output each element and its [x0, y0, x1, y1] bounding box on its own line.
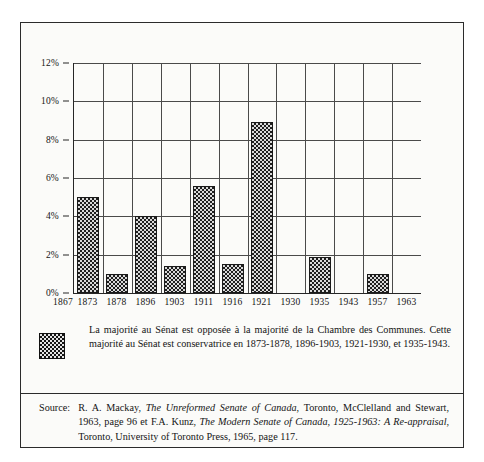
x-axis-tick-label: 1930: [276, 297, 305, 313]
bar-slot: [334, 63, 363, 293]
bar: [77, 197, 99, 293]
bar-slot: [74, 63, 103, 293]
y-axis-tick: [63, 293, 69, 294]
bar-slot: [161, 63, 190, 293]
bar: [193, 186, 215, 293]
x-axis: 1873187818961903191119161921193019351943…: [73, 297, 421, 313]
x-axis-tick-label: 1903: [160, 297, 189, 313]
bar-series: [74, 63, 421, 293]
bar-slot: [305, 63, 334, 293]
x-axis-tick-label: 1943: [334, 297, 363, 313]
bar-chart: 0%2%4%6%8%10%12% 1867 187318781896190319…: [21, 23, 465, 313]
bar-slot: [363, 63, 392, 293]
x-axis-tick-label: 1957: [363, 297, 392, 313]
source-note: Source: R. A. Mackay, The Unreformed Sen…: [21, 401, 465, 444]
bar-slot: [132, 63, 161, 293]
bar: [106, 274, 128, 293]
y-axis-tick-label: 10%: [41, 96, 59, 106]
bar: [222, 264, 244, 293]
source-citation: R. A. Mackay, The Unreformed Senate of C…: [78, 401, 449, 444]
bar-slot: [103, 63, 132, 293]
y-axis-tick-label: 2%: [46, 250, 59, 260]
y-axis-tick: [63, 101, 69, 102]
x-axis-tick-label: 1935: [305, 297, 334, 313]
bar-slot: [190, 63, 219, 293]
y-axis: 0%2%4%6%8%10%12%: [21, 63, 69, 293]
y-axis-tick: [63, 178, 69, 179]
x-axis-tick-label: 1911: [189, 297, 218, 313]
source-book-title: The Modern Senate of Canada, 1925-1963: …: [199, 416, 446, 427]
bar: [251, 122, 273, 293]
x-axis-tick-label: 1963: [392, 297, 421, 313]
bar: [135, 216, 157, 293]
y-axis-tick-label: 8%: [46, 135, 59, 145]
y-axis-tick: [63, 254, 69, 255]
y-axis-tick-label: 4%: [46, 211, 59, 221]
figure-container: 0%2%4%6%8%10%12% 1867 187318781896190319…: [20, 22, 464, 448]
bar-slot: [219, 63, 248, 293]
bar: [309, 257, 331, 293]
chart-legend: La majorité au Sénat est opposée à la ma…: [21, 323, 465, 359]
x-axis-tick-label: 1916: [218, 297, 247, 313]
plot-area: [73, 63, 421, 294]
bar-slot: [276, 63, 305, 293]
y-axis-tick-label: 6%: [46, 173, 59, 183]
y-axis-tick: [63, 63, 69, 64]
x-axis-tick-label: 1896: [131, 297, 160, 313]
bar: [367, 274, 389, 293]
y-axis-tick: [63, 139, 69, 140]
bar-slot: [248, 63, 277, 293]
checkerboard-swatch-icon: [39, 333, 65, 359]
source-book-title: The Unreformed Senate of Canada: [146, 402, 297, 413]
y-axis-tick: [63, 216, 69, 217]
bar-slot: [392, 63, 421, 293]
y-axis-tick-label: 12%: [41, 58, 59, 68]
bar: [164, 266, 186, 293]
legend-text: La majorité au Sénat est opposée à la ma…: [89, 323, 451, 352]
x-axis-tick-label: 1873: [73, 297, 102, 313]
divider: [21, 393, 463, 394]
source-label: Source:: [39, 401, 70, 444]
source-text-segment: R. A. Mackay,: [78, 402, 146, 413]
x-axis-tick-label: 1878: [102, 297, 131, 313]
x-axis-tick-label: 1921: [247, 297, 276, 313]
